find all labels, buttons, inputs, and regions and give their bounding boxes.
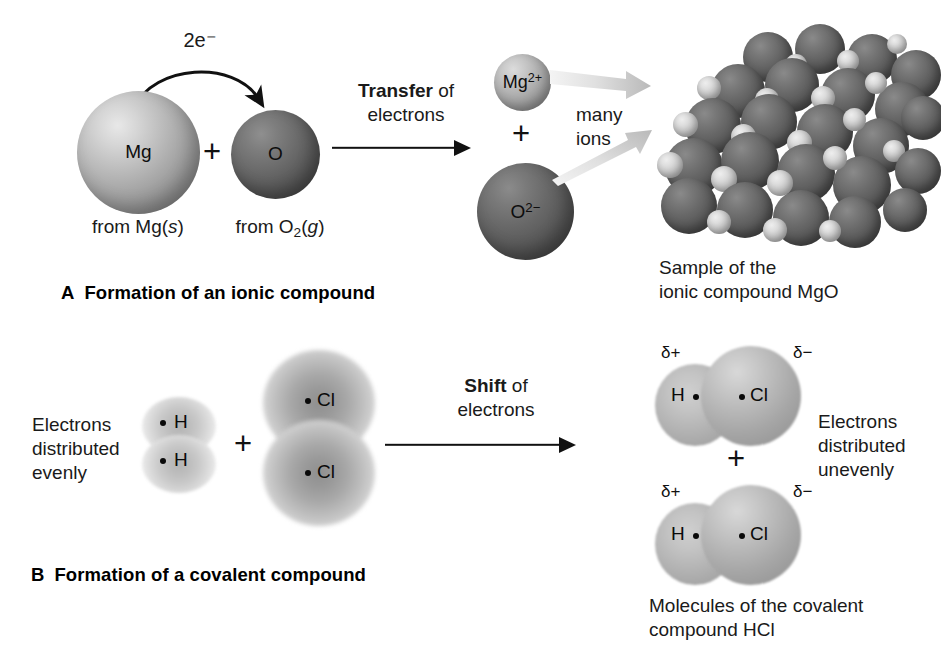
o-source-label: from O2(g) — [205, 215, 355, 245]
crystal-caption: Sample of theionic compound MgO — [659, 256, 919, 304]
h2-electron-dot-bottom — [160, 458, 166, 464]
mgo-crystal-lattice — [655, 20, 941, 250]
panel-b-title-text: Formation of a covalent compound — [54, 564, 366, 585]
transfer-reaction-arrow-icon — [332, 139, 472, 157]
transfer-line2: electrons — [367, 104, 444, 125]
panel-a-letter: A — [61, 282, 74, 303]
even-note-line3: evenly — [32, 462, 87, 483]
product-plus-b: + — [727, 443, 745, 474]
uneven-note-line3: unevenly — [818, 459, 894, 480]
h2-atom-label-top: H — [174, 411, 188, 433]
hcl-caption-line2: compound HCl — [649, 619, 775, 640]
hcl-1-h-label: H — [671, 384, 685, 406]
cl2-molecule: Cl Cl — [259, 348, 385, 528]
hcl-caption: Molecules of the covalentcompound HCl — [649, 594, 939, 642]
even-distribution-note: Electronsdistributedevenly — [32, 413, 152, 485]
o-atom-sphere: O — [231, 110, 320, 199]
hcl-1-delta-plus: δ+ — [661, 343, 680, 363]
mg-source-state: s — [168, 216, 178, 237]
o-source-formula: O — [279, 216, 294, 237]
mg-atom-label: Mg — [77, 141, 200, 163]
shift-bold-word: Shift — [464, 375, 506, 396]
mg-source-prefix: from — [92, 216, 135, 237]
panel-a-title: AFormation of an ionic compound — [61, 282, 375, 304]
shift-process-label: Shift ofelectrons — [426, 374, 566, 422]
cl2-atom-label-bottom: Cl — [317, 461, 335, 483]
transfer-bold-word: Transfer — [358, 80, 433, 101]
cl2-atom-label-top: Cl — [317, 389, 335, 411]
mg-ion-charge: 2+ — [528, 71, 542, 85]
o-ion-symbol: O — [511, 201, 526, 222]
hcl-2-delta-plus: δ+ — [661, 482, 680, 502]
hcl-1-cl-label: Cl — [750, 384, 768, 406]
mg-atom-sphere: Mg — [77, 91, 200, 214]
o-source-subscript: 2 — [294, 225, 302, 240]
h2-atom-label-bottom: H — [174, 449, 188, 471]
even-note-line1: Electrons — [32, 414, 111, 435]
reactant-plus-a: + — [203, 136, 221, 167]
hcl-caption-line1: Molecules of the covalent — [649, 595, 863, 616]
o-source-prefix: from — [236, 216, 279, 237]
mg-ion-sphere: Mg2+ — [494, 54, 551, 111]
uneven-distribution-note: Electronsdistributedunevenly — [818, 410, 938, 482]
o-ion-label: O2− — [477, 200, 574, 223]
uneven-note-line1: Electrons — [818, 411, 897, 432]
uneven-note-line2: distributed — [818, 435, 906, 456]
shift-line2: electrons — [457, 399, 534, 420]
mg-source-formula: Mg — [135, 216, 161, 237]
mg-ion-label: Mg2+ — [494, 71, 551, 93]
hcl-1-delta-minus: δ− — [793, 343, 812, 363]
shift-reaction-arrow-icon — [385, 436, 580, 454]
electron-transfer-label: 2e⁻ — [165, 28, 235, 52]
transfer-rest-word: of — [433, 80, 454, 101]
figure-canvas: 2e⁻ Mg + O from Mg(s) from O2(g) — [0, 0, 941, 653]
mg-ion-symbol: Mg — [503, 72, 528, 92]
hcl-2-delta-minus: δ− — [793, 482, 812, 502]
transfer-process-label: Transfer ofelectrons — [331, 79, 481, 127]
hcl-1-cl-electron-dot — [739, 394, 745, 400]
panel-b-letter: B — [31, 564, 44, 585]
o-atom-label: O — [231, 143, 320, 165]
crystal-caption-line2: ionic compound MgO — [659, 281, 839, 302]
hcl-2-cl-label: Cl — [750, 523, 768, 545]
crystal-caption-line1: Sample of the — [659, 257, 776, 278]
hcl-2-cl-electron-dot — [739, 533, 745, 539]
hcl-2-h-label: H — [671, 523, 685, 545]
panel-b-title: BFormation of a covalent compound — [31, 564, 366, 586]
h2-electron-dot-top — [160, 420, 166, 426]
even-note-line2: distributed — [32, 438, 120, 459]
h2-molecule: H H — [136, 395, 222, 495]
hcl-2-h-electron-dot — [693, 533, 699, 539]
product-plus-a: + — [512, 118, 530, 149]
mg-source-label: from Mg(s) — [63, 215, 213, 239]
shift-rest-word: of — [507, 375, 528, 396]
cl2-electron-dot-bottom — [305, 470, 311, 476]
o-source-state: g — [308, 216, 319, 237]
o-ion-charge: 2− — [525, 200, 540, 215]
panel-a-title-text: Formation of an ionic compound — [84, 282, 375, 303]
reactant-plus-b: + — [234, 428, 252, 459]
hcl-1-h-electron-dot — [693, 394, 699, 400]
cl2-electron-dot-top — [305, 398, 311, 404]
